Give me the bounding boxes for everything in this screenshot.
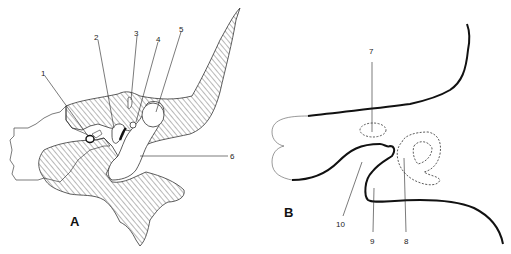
fold-structure <box>292 144 503 244</box>
structure-8 <box>397 132 440 185</box>
callout-4: 4 <box>156 35 161 44</box>
leader-9 <box>373 188 374 232</box>
leader-3 <box>131 36 137 100</box>
callout-2: 2 <box>94 33 99 42</box>
panel-a: 1 2 3 4 5 6 A <box>10 8 240 246</box>
upper-boundary <box>308 24 469 116</box>
callout-10: 10 <box>336 220 345 229</box>
callout-5: 5 <box>179 25 184 34</box>
lower-hatched-region <box>39 138 185 246</box>
structure-1 <box>86 136 94 143</box>
callout-7: 7 <box>369 47 374 56</box>
panel-b: 7 8 9 10 B <box>272 24 503 246</box>
callout-1: 1 <box>41 69 46 78</box>
leader-8 <box>404 158 406 232</box>
anatomical-diagram: 1 2 3 4 5 6 A 7 8 9 10 B <box>0 0 511 254</box>
panel-label-a: A <box>70 214 80 229</box>
structure-4 <box>130 122 136 128</box>
structure-5 <box>142 103 164 127</box>
callout-8: 8 <box>404 237 409 246</box>
left-lobes <box>272 116 308 180</box>
leader-10 <box>343 162 362 216</box>
callout-9: 9 <box>370 237 375 246</box>
callout-3: 3 <box>134 29 139 38</box>
callout-6: 6 <box>230 152 235 161</box>
panel-label-b: B <box>284 205 293 220</box>
structure-7 <box>360 123 386 137</box>
